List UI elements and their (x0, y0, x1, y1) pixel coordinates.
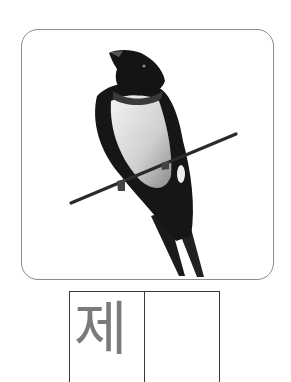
trace-syllable: 제 (74, 294, 127, 364)
swallow-illustration (21, 29, 274, 280)
writing-practice-grid: 제 (69, 291, 220, 382)
writing-cell-traced: 제 (70, 292, 144, 382)
picture-card (21, 29, 274, 280)
writing-cell-empty[interactable] (144, 292, 219, 382)
